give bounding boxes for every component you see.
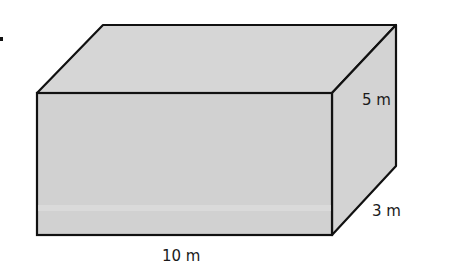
rectangular-prism: [0, 0, 457, 279]
scan-highlight: [38, 205, 331, 211]
width-label: 3 m: [372, 202, 401, 220]
length-label: 10 m: [162, 247, 200, 265]
height-label: 5 m: [362, 91, 391, 109]
prism-front-face: [37, 93, 332, 235]
